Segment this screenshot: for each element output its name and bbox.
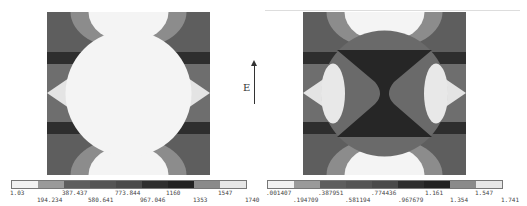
right-contour-graphic	[303, 12, 466, 175]
legend-tick: 967.046	[140, 196, 165, 203]
legend-tick: 1.354	[450, 196, 468, 203]
left-contour-graphic	[47, 12, 210, 175]
legend-tick: 194.234	[37, 196, 62, 203]
field-label: E	[243, 82, 250, 93]
legend-tick: .967679	[398, 196, 423, 203]
legend-tick: 580.641	[88, 196, 113, 203]
legend-tick: 1.03	[10, 189, 24, 196]
legend-tick: .581194	[345, 196, 370, 203]
legend-tick: 1353	[193, 196, 207, 203]
legend-tick: 773.844	[115, 189, 140, 196]
left-color-legend	[11, 180, 247, 189]
legend-tick: .387951	[318, 189, 343, 196]
legend-tick: .001407	[266, 189, 291, 196]
legend-tick: 387.437	[62, 189, 87, 196]
right-contour-plot	[303, 12, 466, 175]
top-divider	[265, 10, 520, 11]
right-color-legend	[267, 180, 503, 189]
legend-tick: .774436	[371, 189, 396, 196]
legend-tick: 1160	[166, 189, 180, 196]
legend-tick: 1.741	[501, 196, 519, 203]
legend-tick: 1.547	[475, 189, 493, 196]
legend-tick: 1.161	[425, 189, 443, 196]
legend-tick: 1740	[245, 196, 259, 203]
field-direction-arrow-icon	[254, 64, 255, 104]
legend-tick: .194709	[293, 196, 318, 203]
left-contour-plot	[47, 12, 210, 175]
legend-tick: 1547	[218, 189, 232, 196]
